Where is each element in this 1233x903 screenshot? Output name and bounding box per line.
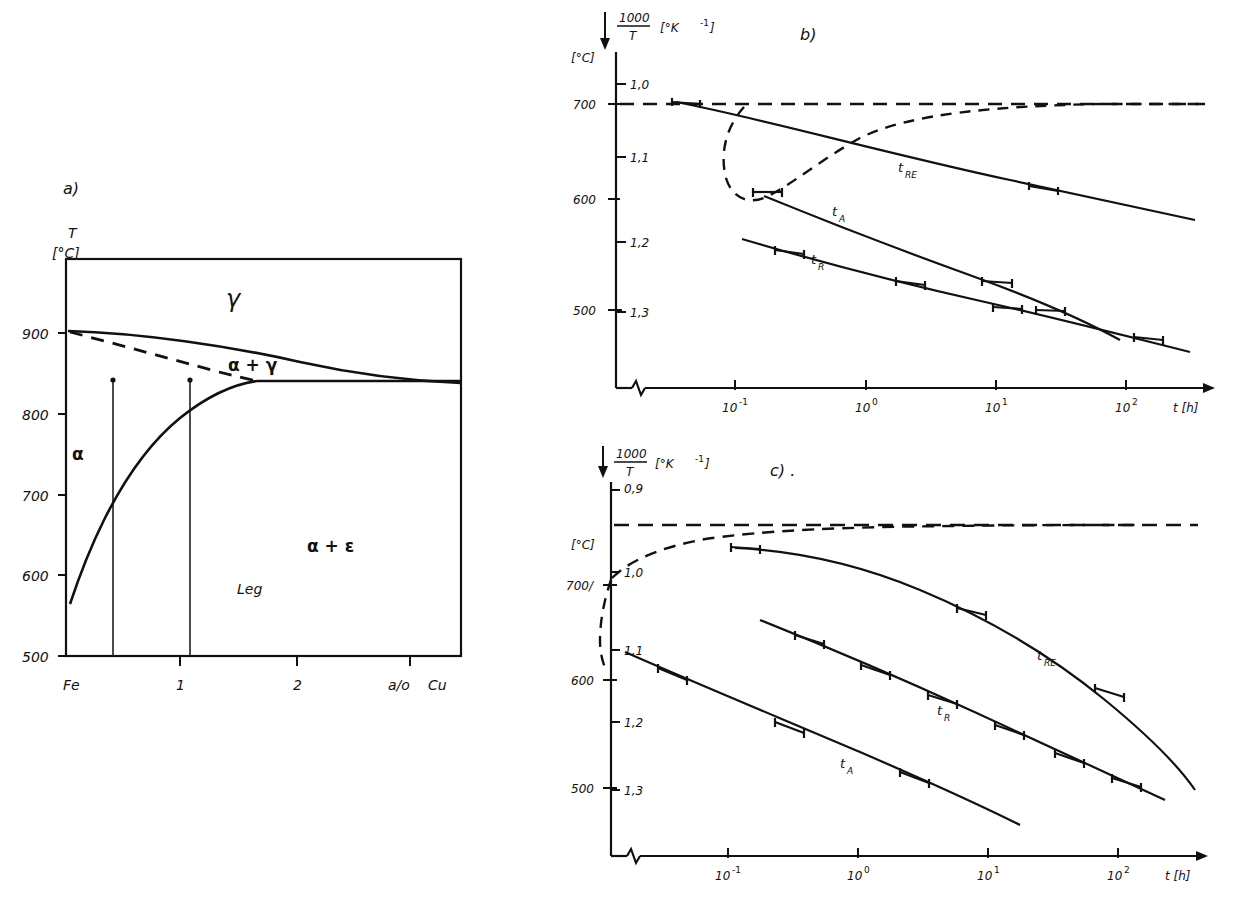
panel-a-xtick-2: 2: [293, 677, 302, 693]
panel-c-label-tRE: t RE: [1037, 648, 1056, 668]
panel-a-ytick-2: 700: [22, 488, 49, 504]
panel-a-xtick-1: 1: [176, 677, 185, 693]
panel-b-top-exp: -1: [700, 18, 709, 28]
panel-b-label-tRE: t RE: [898, 160, 917, 180]
panel-c-xtick-1-exp: 0: [864, 865, 870, 875]
panel-b-left-unit: [°C]: [571, 51, 595, 65]
panel-c-curve-tR: [760, 620, 1165, 800]
panel-b-left-tick-2: 500: [573, 304, 596, 318]
panel-a-label-alpha: α: [72, 444, 84, 464]
panel-c-xtick-3-base: 10: [1107, 869, 1123, 883]
panel-c-left-unit: [°C]: [571, 538, 595, 552]
panel-b-xtick-label-1: 10 0: [855, 397, 878, 415]
panel-a-label-gamma: γ: [226, 285, 242, 313]
panel-a-alpha-solvus-curve: [70, 381, 257, 604]
panel-a-y-unit: [°C]: [52, 245, 80, 261]
panel-b-xtick-3-exp: 2: [1132, 397, 1138, 407]
panel-c-upper-dashed-branch: [612, 525, 1140, 578]
panel-b-xtick-2-exp: 1: [1002, 397, 1008, 407]
panel-c-curve-tRE: [735, 548, 1195, 790]
panel-a-x-ticks: [180, 656, 410, 666]
panel-c-label-tA: t A: [840, 756, 853, 776]
panel-a-x-element: Cu: [428, 677, 447, 693]
panel-a-tag: a): [63, 179, 79, 198]
panel-c-label-tR-sub: R: [944, 713, 950, 723]
panel-c-inner-tick-1: 1,0: [624, 566, 643, 580]
panel-c-xtick-3-exp: 2: [1124, 865, 1130, 875]
panel-c-xtick-1-base: 10: [847, 869, 863, 883]
panel-b-axis-break-icon: [632, 381, 645, 395]
panel-c-xtick-2-base: 10: [977, 869, 993, 883]
panel-b-label-tRE-sub: RE: [905, 170, 917, 180]
panel-a-y-symbol: T: [68, 225, 78, 241]
panel-a-label-alpha-gamma: α + γ: [228, 355, 278, 375]
panel-b-label-tRE-base: t: [898, 160, 904, 175]
panel-b-x-arrow-icon: [1203, 383, 1215, 393]
panel-b-xtick-3-base: 10: [1115, 401, 1131, 415]
panel-b-axis-arrow-icon: [600, 12, 610, 50]
panel-b-label-tA-sub: A: [838, 214, 845, 224]
panel-a-frame: [66, 259, 461, 656]
panel-c-x-axis-label: t [h]: [1165, 869, 1191, 883]
panel-b-xtick-label-0: 10 -1: [722, 397, 748, 415]
figure-svg: a) T [°C] 900 800 700 600 500 Fe 1 2 a/o…: [0, 0, 1233, 903]
panel-b-top-unit: [°K: [660, 21, 680, 35]
panel-a-ytick-3: 600: [22, 568, 49, 584]
panel-b-top-den: T: [629, 29, 638, 43]
panel-a-ytick-4: 500: [22, 649, 49, 665]
panel-c-label-tR: t R: [937, 703, 950, 723]
panel-b-xtick-0-exp: -1: [739, 397, 748, 407]
panel-b-curve-tRE: [676, 102, 1195, 220]
panel-b-top-num: 1000: [619, 11, 650, 25]
panel-b: b) 1000 T [°K -1 ] [°C]: [571, 11, 1215, 415]
panel-a-ytick-0: 900: [22, 326, 49, 342]
panel-b-xtick-label-3: 10 2: [1115, 397, 1138, 415]
panel-b-label-tA-base: t: [832, 204, 838, 219]
panel-c-axis-arrow-icon: [598, 446, 608, 478]
panel-c-top-num: 1000: [616, 447, 647, 461]
panel-c-xtick-2-exp: 1: [994, 865, 1000, 875]
panel-b-xtick-0-base: 10: [722, 401, 738, 415]
panel-c-xtick-label-1: 10 0: [847, 865, 870, 883]
panel-b-inner-tick-2: 1,2: [630, 236, 649, 250]
panel-c-inner-tick-0: 0,9: [624, 482, 643, 496]
panel-c-top-unit-close: ]: [704, 457, 710, 471]
panel-b-left-tick-0: 700: [573, 98, 596, 112]
panel-a-ytick-1: 800: [22, 407, 49, 423]
panel-c-axis-break-icon: [627, 849, 640, 863]
panel-a: a) T [°C] 900 800 700 600 500 Fe 1 2 a/o…: [22, 179, 461, 693]
panel-c-left-tick-1: 600: [571, 674, 594, 688]
panel-c-left-tick-2: 500: [571, 782, 594, 796]
panel-b-x-axis-label: t [h]: [1173, 401, 1199, 415]
panel-b-label-tA: t A: [832, 204, 845, 224]
panel-c-xtick-0-exp: -1: [732, 865, 741, 875]
panel-b-label-tR-sub: R: [818, 262, 824, 272]
panel-c: c) . 1000 T [°K -1 ] [°C]: [566, 446, 1208, 883]
panel-b-curve-tR: [742, 239, 1190, 352]
panel-c-inner-ticks: [611, 490, 620, 790]
panel-c-left-tick-0: 700/: [566, 579, 595, 593]
panel-a-alloy-marker-1: [110, 377, 115, 656]
panel-b-xtick-1-base: 10: [855, 401, 871, 415]
panel-c-markers-tRE: [731, 543, 1124, 702]
panel-a-y-ticks: [58, 333, 66, 656]
figure-canvas: a) T [°C] 900 800 700 600 500 Fe 1 2 a/o…: [0, 0, 1233, 903]
panel-c-label-tRE-base: t: [1037, 648, 1043, 663]
panel-c-inner-tick-3: 1,2: [624, 716, 643, 730]
panel-b-inner-tick-0: 1,0: [630, 78, 649, 92]
panel-a-x-start: Fe: [63, 677, 80, 693]
panel-c-xtick-label-0: 10 -1: [715, 865, 741, 883]
panel-c-xtick-label-2: 10 1: [977, 865, 1000, 883]
panel-c-xtick-0-base: 10: [715, 869, 731, 883]
panel-b-xtick-label-2: 10 1: [985, 397, 1008, 415]
panel-b-top-axis-label: 1000 T [°K -1 ]: [617, 11, 715, 43]
panel-c-inner-tick-4: 1,3: [624, 784, 643, 798]
panel-c-top-den: T: [626, 465, 635, 479]
panel-c-x-arrow-icon: [1196, 851, 1208, 861]
panel-b-label-tR-base: t: [811, 252, 817, 267]
panel-b-left-tick-1: 600: [573, 193, 596, 207]
panel-a-label-alloy: Leg: [237, 581, 262, 597]
panel-a-label-alpha-epsilon: α + ε: [307, 536, 354, 556]
panel-b-nose-dashed-curve: [724, 104, 1200, 200]
panel-c-tag: c) .: [770, 461, 795, 480]
